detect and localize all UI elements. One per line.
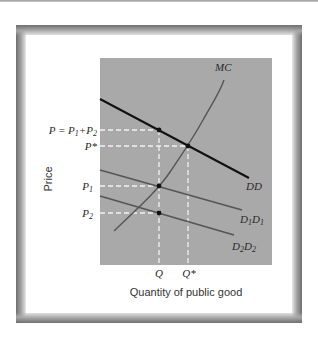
ytick-p: P = P1+P2 (48, 124, 97, 138)
plot-area (100, 58, 272, 265)
point-pstar (186, 144, 191, 149)
d2-b: D (243, 240, 252, 252)
ytick-pstar: P* (84, 140, 98, 152)
point-p1 (157, 184, 162, 189)
label-mc: MC (214, 61, 232, 73)
point-p2 (157, 211, 162, 216)
d1-b: D (251, 213, 260, 225)
xtick-q: Q (155, 267, 163, 279)
d1-a: D (239, 213, 248, 225)
d1-sub-b: 1 (260, 218, 264, 227)
xtick-qstar: Q* (182, 267, 196, 279)
d2-sub-b: 2 (252, 245, 256, 254)
y-axis-title: Price (42, 166, 54, 191)
d2-a: D (231, 240, 240, 252)
ytick-p2: P2 (81, 207, 93, 221)
x-axis-title: Quantity of public good (130, 286, 243, 298)
ytick-p1: P1 (81, 180, 93, 194)
public-good-chart: MC DD D1D1 D2D2 P = P1+P2 P* P1 P2 Q Q* … (0, 0, 318, 346)
label-dd: DD (245, 180, 262, 192)
point-p (157, 128, 162, 133)
